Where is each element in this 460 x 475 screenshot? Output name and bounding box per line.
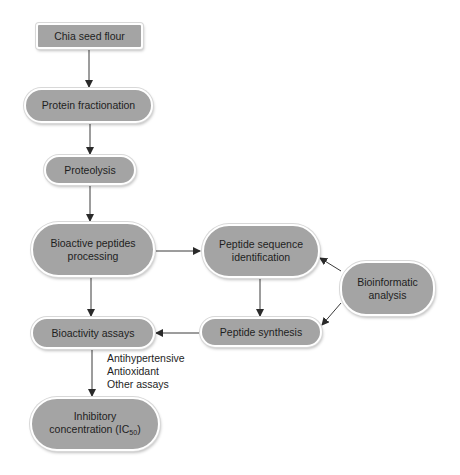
node-bioinformatic-analysis: Bioinformatic analysis xyxy=(340,261,435,316)
arrow-bioinformatic-to-sequence xyxy=(320,258,341,271)
node-label: Protein fractionation xyxy=(42,99,135,112)
node-chia-seed-flour: Chia seed flour xyxy=(36,23,143,49)
node-label: Chia seed flour xyxy=(54,30,125,43)
assay-type: Antihypertensive xyxy=(107,352,185,365)
assay-type: Antioxidant xyxy=(107,365,185,378)
node-peptide-sequence-identification: Peptide sequence identification xyxy=(202,224,320,278)
node-label-line2: processing xyxy=(50,250,135,263)
node-inhibitory-concentration: Inhibitory concentration (IC50) xyxy=(30,397,160,451)
node-peptide-synthesis: Peptide synthesis xyxy=(200,317,322,347)
node-label-line1: Bioinformatic xyxy=(357,276,418,289)
node-label-line2: analysis xyxy=(357,289,418,302)
node-label: Peptide synthesis xyxy=(220,326,302,339)
subscript-50: 50 xyxy=(129,429,137,436)
assay-type: Other assays xyxy=(107,378,185,391)
node-label: Proteolysis xyxy=(64,164,115,177)
node-label-line1: Inhibitory xyxy=(49,410,140,423)
label-prefix: concentration (IC xyxy=(49,423,129,435)
node-label-line1: Peptide sequence xyxy=(219,238,303,251)
node-protein-fractionation: Protein fractionation xyxy=(24,88,153,123)
node-bioactive-peptides-processing: Bioactive peptides processing xyxy=(31,222,155,277)
node-label-line2: concentration (IC50) xyxy=(49,423,140,439)
node-proteolysis: Proteolysis xyxy=(44,155,136,185)
node-bioactivity-assays: Bioactivity assays xyxy=(31,317,155,349)
node-label-line1: Bioactive peptides xyxy=(50,237,135,250)
node-label: Bioactivity assays xyxy=(52,327,135,340)
label-suffix: ) xyxy=(137,423,141,435)
arrow-bioinformatic-to-synthesis xyxy=(322,303,341,325)
node-label-line2: identification xyxy=(219,251,303,264)
assay-types-annotation: Antihypertensive Antioxidant Other assay… xyxy=(107,352,185,391)
